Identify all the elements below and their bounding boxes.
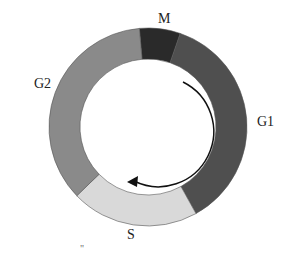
phase-label-m: M bbox=[158, 12, 170, 26]
phase-segment-g2 bbox=[49, 28, 142, 195]
phase-label-s: S bbox=[127, 228, 135, 242]
arrowhead-icon bbox=[127, 176, 138, 187]
cell-cycle-ring bbox=[49, 28, 247, 226]
phase-label-g1: G1 bbox=[257, 115, 274, 129]
phase-segment-g1 bbox=[170, 33, 247, 213]
phase-label-g2: G2 bbox=[34, 77, 51, 91]
stray-mark: " bbox=[80, 243, 84, 254]
cell-cycle-diagram bbox=[0, 0, 288, 259]
